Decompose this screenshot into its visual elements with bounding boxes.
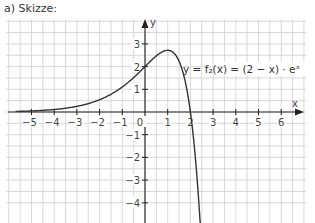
x-axis-label: x [292, 98, 298, 109]
y-tick-label: −3 [125, 175, 140, 186]
x-tick-label: 5 [255, 117, 261, 128]
y-tick-label: 1 [134, 84, 140, 95]
x-axis-arrow-icon [295, 109, 304, 116]
x-tick-label: −1 [113, 117, 128, 128]
x-tick-label: 0 [137, 117, 143, 128]
x-tick-label: 3 [210, 117, 216, 128]
x-tick-label: −3 [68, 117, 83, 128]
y-axis-label: y [150, 17, 156, 28]
y-tick-label: 2 [134, 62, 140, 73]
y-tick-label: 3 [134, 39, 140, 50]
x-tick-label: 1 [165, 117, 171, 128]
x-tick-label: 4 [233, 117, 239, 128]
function-label: y = f₂(x) = (2 − x) · eˣ [183, 63, 301, 75]
x-tick-label: −2 [90, 117, 105, 128]
function-curve [16, 50, 201, 223]
y-tick-label: −4 [125, 198, 140, 209]
y-tick-label: −2 [125, 152, 140, 163]
x-tick-label: −5 [22, 117, 37, 128]
function-graph: x y −5−4−3−2−10123456 321−1−2−3−4 y = f₂… [0, 0, 315, 223]
x-tick-label: 6 [278, 117, 284, 128]
y-axis-arrow-icon [142, 19, 149, 28]
x-tick-label: −4 [45, 117, 60, 128]
y-tick-label: −1 [125, 130, 140, 141]
